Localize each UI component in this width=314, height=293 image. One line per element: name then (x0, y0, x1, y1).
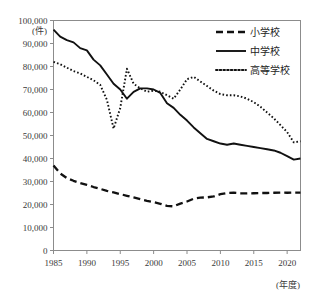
y-tick-label: 80,000 (23, 62, 48, 72)
line-chart: 010,00020,00030,00040,00050,00060,00070,… (0, 0, 314, 293)
x-tick-label: 1985 (45, 258, 64, 268)
x-tick-label: 1990 (78, 258, 97, 268)
y-tick-label: 20,000 (23, 200, 48, 210)
y-tick-label: 60,000 (23, 108, 48, 118)
x-tick-label: 2005 (178, 258, 197, 268)
y-tick-label: 40,000 (23, 154, 48, 164)
y-tick-label: 90,000 (23, 39, 48, 49)
legend-label: 高等学校 (250, 64, 290, 76)
x-tick-label: 2015 (245, 258, 264, 268)
x-tick-label: 1995 (111, 258, 130, 268)
legend-label: 小学校 (250, 26, 280, 38)
y-tick-label: 10,000 (23, 223, 48, 233)
y-tick-label: 30,000 (23, 177, 48, 187)
y-axis-unit-label: (件) (32, 25, 47, 36)
x-tick-label: 2010 (211, 258, 230, 268)
chart-container: 010,00020,00030,00040,00050,00060,00070,… (0, 0, 314, 293)
x-tick-label: 2020 (278, 258, 297, 268)
y-tick-label: 0 (43, 246, 48, 256)
legend-label: 中学校 (250, 45, 280, 57)
x-axis-unit-label: (年度) (276, 279, 300, 290)
x-tick-label: 2000 (145, 258, 164, 268)
y-tick-label: 70,000 (23, 85, 48, 95)
y-tick-label: 50,000 (23, 131, 48, 141)
y-tick-label: 100,000 (18, 16, 48, 26)
